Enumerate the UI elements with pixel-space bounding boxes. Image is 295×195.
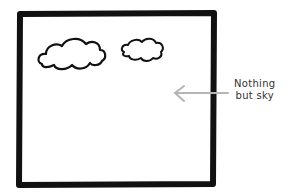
annotation-label: Nothing but sky (234, 78, 275, 102)
cloud-icon-small (122, 39, 163, 61)
annotation-line-2: but sky (234, 90, 275, 102)
annotation-line-1: Nothing (234, 78, 275, 90)
cloud-icon-large (39, 39, 106, 69)
arrow-left-icon (175, 86, 228, 101)
picture-frame (19, 13, 214, 185)
